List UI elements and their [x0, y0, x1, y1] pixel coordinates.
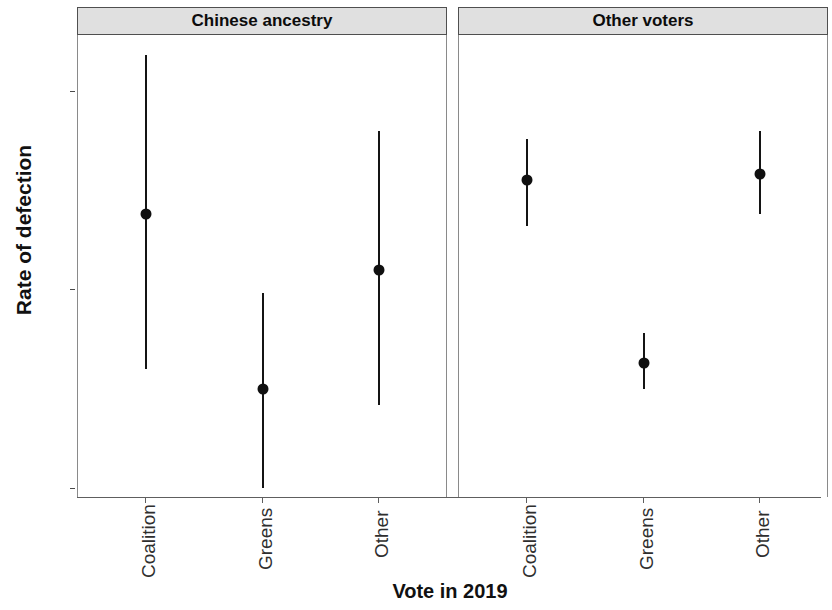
x-axis-title: Vote in 2019: [0, 580, 832, 603]
x-axis-line: [77, 497, 821, 498]
x-tick-mark-greens-left: [262, 497, 263, 503]
x-tick-mark-other-left: [378, 497, 379, 503]
x-tick-label-greens-right: Greens: [636, 508, 658, 570]
facet-panel-chinese-ancestry: Chinese ancestry: [77, 7, 447, 497]
y-tick-mark-10: [70, 91, 75, 92]
plot-area-other-voters: [458, 35, 828, 497]
facet-strip-other-voters: Other voters: [458, 7, 828, 35]
plot-area-chinese-ancestry: [77, 35, 447, 497]
facet-strip-label: Chinese ancestry: [192, 11, 333, 31]
facet-strip-label: Other voters: [592, 11, 693, 31]
data-point: [258, 383, 269, 394]
data-point: [755, 169, 766, 180]
x-tick-mark-greens-right: [643, 497, 644, 503]
x-tick-label-greens-left: Greens: [255, 508, 277, 570]
data-point: [374, 264, 385, 275]
facet-panel-other-voters: Other voters: [458, 7, 828, 497]
x-tick-mark-coalition-left: [145, 497, 146, 503]
data-point: [522, 175, 533, 186]
x-tick-mark-coalition-right: [526, 497, 527, 503]
y-tick-mark-0: [70, 488, 75, 489]
x-tick-label-coalition-left: Coalition: [138, 504, 160, 578]
x-tick-label-other-left: Other: [371, 510, 393, 558]
facet-strip-chinese-ancestry: Chinese ancestry: [77, 7, 447, 35]
data-point: [639, 357, 650, 368]
x-tick-label-other-right: Other: [752, 510, 774, 558]
y-axis-title: Rate of defection: [12, 120, 36, 340]
x-tick-mark-other-right: [759, 497, 760, 503]
y-tick-mark-5: [70, 289, 75, 290]
data-point: [141, 209, 152, 220]
x-tick-label-coalition-right: Coalition: [519, 504, 541, 578]
